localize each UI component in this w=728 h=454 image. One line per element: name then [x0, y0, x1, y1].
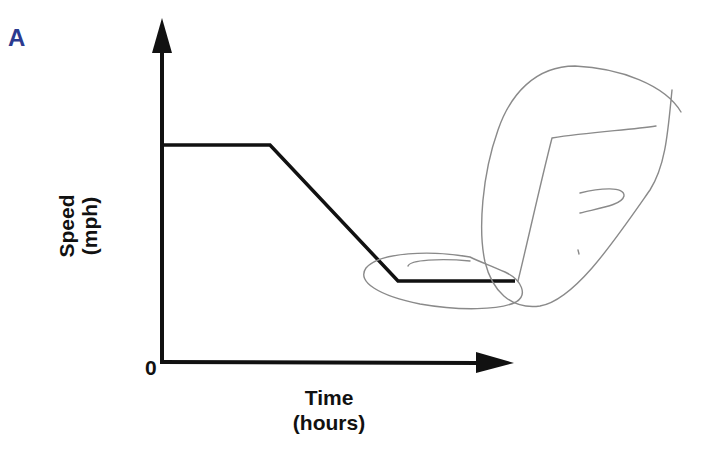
- annotation-question-mark: [580, 189, 624, 213]
- axes: [152, 18, 514, 373]
- annotation-dot: [578, 250, 579, 254]
- pencil-annotations: [364, 66, 681, 309]
- y-axis-arrowhead-icon: [152, 18, 172, 53]
- x-axis: [160, 362, 478, 363]
- annotation-loop: [482, 66, 681, 307]
- annotation-rising-line: [518, 126, 656, 281]
- annotation-inner-stroke: [408, 260, 470, 266]
- x-axis-arrowhead-icon: [476, 352, 514, 373]
- speed-time-graph: [0, 0, 728, 454]
